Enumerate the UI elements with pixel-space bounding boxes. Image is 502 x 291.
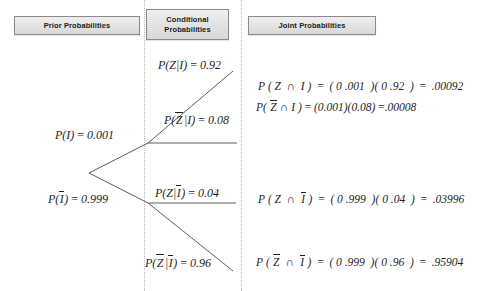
branch-root-to-i: [89, 143, 148, 173]
header-joint-probabilities: Joint Probabilities: [248, 16, 376, 35]
header-conditional-label: Conditional Probabilities: [164, 15, 210, 34]
label-conditional-zbar-given-ibar: P(Z |I) = 0.96: [145, 256, 211, 271]
equation-joint-z-and-ibar: P ( Z ∩ I ) = ( 0 .999 )( 0 .04 ) = .039…: [258, 193, 464, 205]
branch-i-to-z: [148, 71, 233, 143]
header-joint-label: Joint Probabilities: [279, 21, 346, 30]
equation-joint-zbar-and-i: P( Z ∩ I ) = (0.001)(0.08) =.00008: [256, 101, 416, 113]
header-conditional-line2: Probabilities: [164, 25, 210, 34]
label-prior-p-i: P(I) = 0.001: [55, 128, 114, 143]
label-conditional-z-given-i: P(Z|I) = 0.92: [158, 58, 221, 73]
label-conditional-z-given-ibar: P(Z|I) = 0.04: [155, 186, 219, 201]
header-prior-probabilities: Prior Probabilities: [14, 16, 140, 35]
header-conditional-probabilities: Conditional Probabilities: [146, 9, 229, 40]
label-prior-p-ibar: P(I) = 0.999: [48, 192, 108, 207]
equation-joint-z-and-i: P ( Z ∩ I ) = ( 0 .001 )( 0 .92 ) = .000…: [258, 80, 463, 92]
equation-joint-zbar-and-ibar: P ( Z ∩ I ) = ( 0 .999 )( 0 .96 ) = .959…: [256, 256, 463, 268]
tree-branch-lines: [0, 0, 502, 291]
header-conditional-line1: Conditional: [166, 15, 208, 24]
probability-tree-diagram: Prior Probabilities Conditional Probabil…: [0, 0, 502, 291]
header-prior-label: Prior Probabilities: [44, 21, 111, 30]
label-conditional-zbar-given-i: P(Z |I) = 0.08: [164, 113, 229, 128]
